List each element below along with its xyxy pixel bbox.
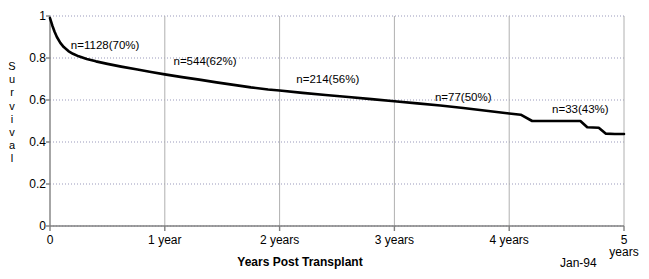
x-axis-title: Years Post Transplant	[0, 255, 600, 269]
x-tick-label-3: 3 years	[375, 234, 414, 246]
x-tick-label-5: 5 years	[609, 234, 638, 258]
x-axis-tick-labels: 01 year2 years3 years4 years5 years	[0, 0, 649, 279]
x-tick-label-2: 2 years	[260, 234, 299, 246]
date-stamp: Jan-94	[560, 256, 640, 270]
x-tick-label-1: 1 year	[148, 234, 181, 246]
x-tick-label-0: 0	[47, 234, 54, 246]
survival-chart: n=1128(70%)n=544(62%)n=214(56%)n=77(50%)…	[0, 0, 649, 279]
x-tick-label-4: 4 years	[490, 234, 529, 246]
